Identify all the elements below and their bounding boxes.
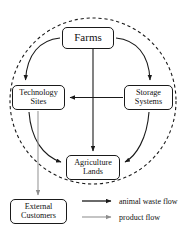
diagram-page: Farms Technology Sites Storage Systems A… [0,0,187,235]
edge-technology-sites-to-agriculture-lands [29,112,61,162]
edge-storage-systems-to-agriculture-lands [125,112,149,162]
node-agriculture-lands-label: Agriculture Lands [72,159,114,176]
node-technology-sites-label-line2: Sites [31,97,47,106]
legend-item-product-flow-label: product flow [119,213,160,222]
node-external-customers-label-line2: Customers [21,211,56,220]
node-farms-label: Farms [72,32,104,43]
node-technology-sites-label: Technology Sites [17,89,60,106]
node-agriculture-lands-label-line2: Lands [83,167,103,176]
legend-item-animal-waste-flow-label: animal waste flow [119,197,178,206]
edge-farms-to-storage-systems [116,38,150,80]
node-external-customers[interactable]: External Customers [10,199,67,224]
node-storage-systems-label-line2: Systems [135,97,162,106]
node-farms[interactable]: Farms [62,27,114,49]
node-storage-systems[interactable]: Storage Systems [124,85,173,110]
node-agriculture-lands[interactable]: Agriculture Lands [66,155,120,180]
node-external-customers-label: External Customers [19,203,58,220]
node-technology-sites[interactable]: Technology Sites [12,85,65,110]
edge-farms-to-technology-sites [26,38,61,80]
node-storage-systems-label: Storage Systems [133,89,164,106]
